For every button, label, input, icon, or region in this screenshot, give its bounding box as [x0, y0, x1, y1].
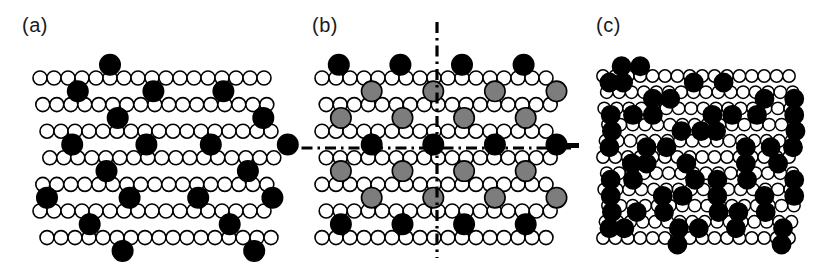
adsorbate-black [707, 122, 725, 140]
adsorbate-black [644, 106, 662, 124]
substrate-atom [723, 135, 735, 147]
adsorbate-black [729, 203, 747, 221]
adsorbate-black [738, 170, 756, 188]
substrate-atom [758, 232, 770, 244]
adsorbate-black [686, 170, 704, 188]
lattice-panel-c [0, 0, 832, 265]
adsorbate-black [628, 203, 646, 221]
substrate-atom [659, 70, 671, 82]
adsorbate-black [673, 187, 691, 205]
substrate-atom [772, 102, 784, 114]
substrate-atom [737, 86, 749, 98]
substrate-atom [708, 151, 720, 163]
figure-container: (a) (b) (c) [0, 0, 832, 265]
adsorbate-black [603, 122, 621, 140]
substrate-atom [696, 151, 708, 163]
substrate-atom [746, 70, 758, 82]
adsorbate-black [668, 235, 686, 253]
adsorbate-black [784, 138, 802, 156]
adsorbate-black [624, 170, 642, 188]
adsorbate-black [677, 154, 695, 172]
adsorbate-black [672, 122, 690, 140]
adsorbate-black [709, 203, 727, 221]
substrate-atom [746, 232, 758, 244]
adsorbate-black [631, 57, 649, 75]
adsorbate-black [690, 219, 708, 237]
adsorbate-black [769, 154, 787, 172]
substrate-atom [663, 167, 675, 179]
adsorbate-black [614, 73, 632, 91]
stray-dash-mark [566, 143, 579, 148]
substrate-atom [624, 135, 636, 147]
substrate-atom [708, 232, 720, 244]
adsorbate-black [786, 122, 804, 140]
substrate-atom [758, 70, 770, 82]
adsorbate-black [714, 73, 732, 91]
adsorbate-black [748, 106, 766, 124]
adsorbate-black [637, 154, 655, 172]
substrate-atom [671, 70, 683, 82]
substrate-atom [721, 151, 733, 163]
substrate-atom [634, 232, 646, 244]
substrate-atom [783, 70, 795, 82]
adsorbate-black [615, 219, 633, 237]
substrate-atom [770, 70, 782, 82]
adsorbate-black [657, 138, 675, 156]
adsorbate-black [727, 219, 745, 237]
adsorbate-black [703, 106, 721, 124]
adsorbate-black [600, 138, 618, 156]
adsorbate-black [655, 203, 673, 221]
adsorbate-black [603, 203, 621, 221]
substrate-atom [646, 232, 658, 244]
adsorbate-black [685, 73, 703, 91]
adsorbate-black [661, 89, 679, 107]
substrate-atom [685, 102, 697, 114]
substrate-atom [733, 70, 745, 82]
adsorbate-black [772, 235, 790, 253]
adsorbate-black [624, 106, 642, 124]
adsorbate-black [756, 203, 774, 221]
adsorbate-black [723, 106, 741, 124]
adsorbate-black [785, 187, 803, 205]
